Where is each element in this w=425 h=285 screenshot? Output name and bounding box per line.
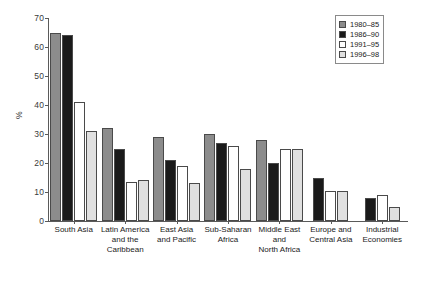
x-axis-category-line: South Asia [49, 225, 98, 235]
bar [74, 102, 85, 221]
legend-item: 1986–90 [339, 30, 379, 39]
y-tick-label: 70 [34, 13, 44, 23]
bar-group [254, 18, 305, 221]
bar [62, 35, 73, 221]
y-tick-label: 60 [34, 42, 44, 52]
x-tick-mark [331, 221, 332, 224]
bar [228, 146, 239, 221]
bar [240, 169, 251, 221]
legend-item: 1991–95 [339, 40, 379, 49]
bar [189, 183, 200, 221]
bar [268, 163, 279, 221]
legend-label: 1986–90 [350, 30, 379, 39]
x-axis-category-label: Sub-SaharanAfrica [202, 225, 253, 255]
x-axis-category-line: Africa [203, 235, 252, 245]
legend-swatch-icon [339, 31, 346, 38]
legend-swatch-icon [339, 41, 346, 48]
legend: 1980–851986–901991–951996–98 [335, 15, 384, 64]
legend-label: 1996–98 [350, 50, 379, 59]
x-tick-mark [279, 221, 280, 224]
x-axis-category-line: Economies [358, 235, 407, 245]
bar [126, 182, 137, 221]
bar [292, 149, 303, 222]
x-tick-mark [125, 221, 126, 224]
x-axis-category-line: Europe and [306, 225, 355, 235]
x-axis-category-line: Sub-Saharan [203, 225, 252, 235]
bar [153, 137, 164, 221]
bar [216, 143, 227, 221]
bar [114, 149, 125, 222]
legend-swatch-icon [339, 51, 346, 58]
bar [102, 128, 113, 221]
bar [313, 178, 324, 222]
x-axis-category-label: Middle EastandNorth Africa [254, 225, 305, 255]
y-tick-mark [45, 221, 48, 222]
x-axis-category-label: IndustrialEconomies [357, 225, 408, 255]
y-tick-label: 20 [34, 158, 44, 168]
y-tick-label: 30 [34, 129, 44, 139]
bar [50, 33, 61, 222]
bar [325, 191, 336, 221]
y-tick-label: 40 [34, 100, 44, 110]
x-axis-category-line: Caribbean [100, 245, 149, 255]
y-tick-label: 50 [34, 71, 44, 81]
bar [377, 195, 388, 221]
bar [204, 134, 215, 221]
bar-group [99, 18, 150, 221]
x-axis-category-line: Middle East [255, 225, 304, 235]
y-axis-label: % [14, 111, 24, 119]
bar [138, 180, 149, 221]
legend-swatch-icon [339, 21, 346, 28]
x-tick-mark [177, 221, 178, 224]
bar-chart: % 010203040506070 South AsiaLatin Americ… [0, 0, 425, 285]
bar [165, 160, 176, 221]
x-axis-category-line: Latin America [100, 225, 149, 235]
x-axis-category-label: East Asiaand Pacific [151, 225, 202, 255]
x-axis-category-label: Europe andCentral Asia [305, 225, 356, 255]
x-axis-category-label: South Asia [48, 225, 99, 255]
y-tick-label: 0 [39, 216, 44, 226]
x-tick-mark [382, 221, 383, 224]
bar [86, 131, 97, 221]
bar [337, 191, 348, 221]
x-axis-category-line: East Asia [152, 225, 201, 235]
x-axis-category-line: Industrial [358, 225, 407, 235]
legend-item: 1980–85 [339, 20, 379, 29]
bar [177, 166, 188, 221]
y-tick-label: 10 [34, 187, 44, 197]
legend-label: 1980–85 [350, 20, 379, 29]
bar-group [202, 18, 253, 221]
x-tick-mark [74, 221, 75, 224]
x-axis-category-line: and Pacific [152, 235, 201, 245]
x-axis-labels: South AsiaLatin Americaand theCaribbeanE… [48, 225, 408, 255]
bar [389, 207, 400, 222]
x-axis-category-line: Central Asia [306, 235, 355, 245]
bar [365, 198, 376, 221]
bar-group [48, 18, 99, 221]
legend-label: 1991–95 [350, 40, 379, 49]
x-axis-category-line: North Africa [255, 245, 304, 255]
bar [256, 140, 267, 221]
bar-group [151, 18, 202, 221]
bar [280, 149, 291, 222]
x-tick-mark [228, 221, 229, 224]
x-axis-category-line: and [255, 235, 304, 245]
x-axis-category-line: and the [100, 235, 149, 245]
x-axis-category-label: Latin Americaand theCaribbean [99, 225, 150, 255]
legend-item: 1996–98 [339, 50, 379, 59]
